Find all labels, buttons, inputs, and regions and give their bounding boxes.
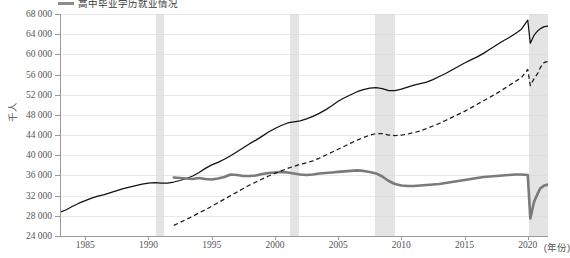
x-axis-unit-label: (年份) — [544, 240, 570, 254]
y-tick — [55, 236, 60, 237]
y-tick-label: 40 000 — [26, 150, 52, 160]
series-thick-gray — [174, 170, 548, 218]
y-axis-line — [60, 14, 61, 236]
y-tick — [55, 155, 60, 156]
y-tick-label: 64 000 — [26, 29, 52, 39]
x-tick-label: 2000 — [265, 240, 284, 250]
legend-swatch-icon — [58, 2, 74, 5]
x-tick-label: 1990 — [139, 240, 158, 250]
x-tick-label: 1995 — [202, 240, 221, 250]
series-dashed-black — [174, 61, 548, 225]
y-tick — [55, 14, 60, 15]
y-tick — [55, 196, 60, 197]
y-tick-label: 24 000 — [26, 231, 52, 241]
x-tick-label: 2005 — [329, 240, 348, 250]
y-tick — [55, 75, 60, 76]
x-tick-label: 2010 — [392, 240, 411, 250]
series-solid-black — [60, 20, 548, 212]
y-tick-label: 32 000 — [26, 191, 52, 201]
x-axis-line — [60, 236, 548, 237]
y-tick-label: 28 000 — [26, 211, 52, 221]
x-tick-label: 2020 — [518, 240, 537, 250]
y-tick — [55, 175, 60, 176]
y-tick-label: 68 000 — [26, 9, 52, 19]
plot-area — [60, 14, 548, 236]
series-lines — [60, 14, 548, 236]
y-tick — [55, 135, 60, 136]
y-axis-labels: 24 00028 00032 00036 00040 00044 00048 0… — [0, 14, 52, 236]
y-tick-label: 52 000 — [26, 90, 52, 100]
y-tick-label: 36 000 — [26, 170, 52, 180]
y-tick-label: 56 000 — [26, 70, 52, 80]
y-tick-label: 44 000 — [26, 130, 52, 140]
legend-label-0: 高中毕业学历就业情况 — [78, 0, 178, 10]
y-tick — [55, 216, 60, 217]
y-tick — [55, 95, 60, 96]
chart-legend: 高中毕业学历就业情况 — [58, 0, 178, 10]
y-tick — [55, 34, 60, 35]
x-tick-label: 1985 — [76, 240, 95, 250]
y-tick-label: 60 000 — [26, 49, 52, 59]
x-tick-label: 2015 — [455, 240, 474, 250]
y-tick-label: 48 000 — [26, 110, 52, 120]
y-tick — [55, 115, 60, 116]
y-tick — [55, 54, 60, 55]
